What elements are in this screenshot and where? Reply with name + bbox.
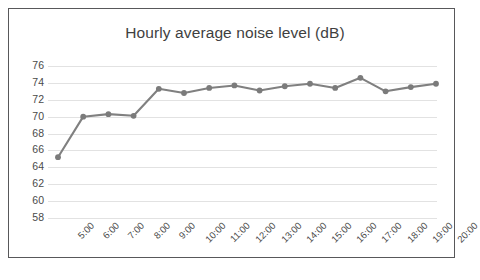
data-point xyxy=(307,81,313,87)
y-axis-tick-label: 70 xyxy=(10,110,44,122)
series-line xyxy=(58,78,436,157)
x-axis-tick-label: 13:00 xyxy=(279,220,304,245)
data-point xyxy=(232,83,238,89)
data-point xyxy=(257,88,263,94)
y-axis-tick-label: 64 xyxy=(10,160,44,172)
y-axis-tick-label: 58 xyxy=(10,211,44,223)
y-axis-tick-label: 62 xyxy=(10,177,44,189)
data-point xyxy=(358,75,364,81)
y-axis-tick-labels: 76747270686664626058 xyxy=(4,66,44,218)
data-point xyxy=(282,83,288,89)
y-axis-tick-label: 72 xyxy=(10,93,44,105)
x-axis-tick-label: 5:00 xyxy=(75,220,96,241)
x-axis-tick-label: 17:00 xyxy=(379,220,404,245)
x-axis-tick-label: 11:00 xyxy=(228,220,252,244)
y-axis-tick-label: 66 xyxy=(10,143,44,155)
data-point xyxy=(408,84,414,90)
x-axis-tick-label: 12:00 xyxy=(253,220,278,245)
x-axis-tick-label: 10:00 xyxy=(203,220,228,245)
x-axis-tick-label: 20:00 xyxy=(455,220,480,245)
y-axis-tick-label: 68 xyxy=(10,127,44,139)
data-point xyxy=(106,111,112,117)
data-point xyxy=(131,113,137,119)
x-axis-tick-label: 16:00 xyxy=(354,220,379,245)
plot-area xyxy=(48,66,437,218)
x-axis-tick-labels: 5:006:007:008:009:0010:0011:0012:0013:00… xyxy=(48,220,437,260)
y-axis-tick-label: 74 xyxy=(10,76,44,88)
chart-title: Hourly average noise level (dB) xyxy=(40,24,430,48)
x-axis-tick-label: 7:00 xyxy=(126,220,147,241)
data-point xyxy=(156,86,162,92)
series-hourly-noise-level xyxy=(48,66,437,218)
x-axis-tick-label: 15:00 xyxy=(329,220,354,245)
data-point xyxy=(332,85,338,91)
x-axis-tick-label: 8:00 xyxy=(151,220,172,241)
y-axis-tick-label: 76 xyxy=(10,59,44,71)
gridline xyxy=(48,218,437,219)
data-point xyxy=(433,81,439,87)
x-axis-tick-label: 9:00 xyxy=(176,220,197,241)
data-point xyxy=(206,85,212,91)
data-point xyxy=(55,154,61,160)
x-axis-tick-label: 6:00 xyxy=(101,220,122,241)
data-point xyxy=(181,90,187,96)
data-point xyxy=(80,114,86,120)
x-axis-tick-label: 18:00 xyxy=(405,220,430,245)
data-point xyxy=(383,88,389,94)
y-axis-tick-label: 60 xyxy=(10,194,44,206)
x-axis-tick-label: 14:00 xyxy=(304,220,329,245)
